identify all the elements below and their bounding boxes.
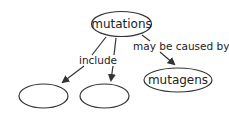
- concept-map: include may be caused by mutations mutag…: [0, 0, 229, 120]
- node-mutagens: mutagens: [144, 68, 212, 92]
- node-mutations-label: mutations: [91, 17, 152, 31]
- node-blank-2: [80, 84, 129, 108]
- edge-label-may-be-caused-by: may be caused by: [133, 40, 229, 52]
- node-mutagens-label: mutagens: [148, 73, 208, 87]
- node-mutations: mutations: [91, 12, 152, 37]
- edge-label-include: include: [79, 54, 117, 66]
- node-blank-1: [19, 84, 68, 108]
